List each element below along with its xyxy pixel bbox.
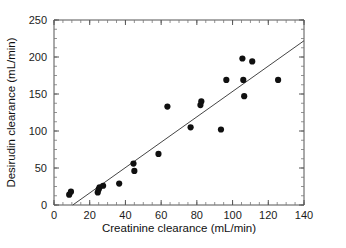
x-tick-label: 40 <box>119 209 131 221</box>
x-tick-label: 120 <box>259 209 277 221</box>
data-point <box>164 103 170 109</box>
data-point <box>68 189 74 195</box>
data-point <box>241 93 247 99</box>
regression-line <box>73 41 304 205</box>
data-point <box>223 77 229 83</box>
y-axis-title: Desirudin clearance (mL/min) <box>5 37 17 187</box>
data-point <box>100 183 106 189</box>
data-point <box>198 98 204 104</box>
data-point <box>131 168 137 174</box>
y-tick-label: 250 <box>29 14 47 26</box>
data-point <box>239 55 245 61</box>
y-tick-label: 100 <box>29 125 47 137</box>
scatter-plot-figure: 020406080100120140050100150200250Creatin… <box>0 0 346 248</box>
data-point <box>249 58 255 64</box>
x-tick-label: 100 <box>223 209 241 221</box>
y-tick-label: 0 <box>41 199 47 211</box>
x-tick-label: 80 <box>191 209 203 221</box>
data-point <box>155 151 161 157</box>
data-point <box>130 160 136 166</box>
x-axis-title: Creatinine clearance (mL/min) <box>102 222 256 234</box>
data-point <box>116 180 122 186</box>
x-tick-label: 140 <box>295 209 313 221</box>
x-tick-label: 20 <box>84 209 96 221</box>
x-tick-label: 60 <box>155 209 167 221</box>
x-tick-label: 0 <box>51 209 57 221</box>
chart-canvas: 020406080100120140050100150200250Creatin… <box>0 0 346 248</box>
data-point <box>275 77 281 83</box>
y-tick-label: 200 <box>29 51 47 63</box>
y-tick-label: 150 <box>29 88 47 100</box>
data-point <box>240 77 246 83</box>
data-point <box>188 124 194 130</box>
data-point <box>218 126 224 132</box>
y-tick-label: 50 <box>35 162 47 174</box>
